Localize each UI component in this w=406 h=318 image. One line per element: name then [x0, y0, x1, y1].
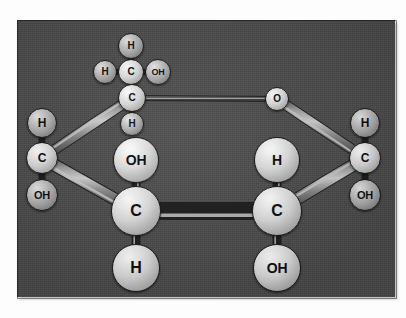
atom-label: O: [273, 94, 280, 104]
atom-c3[interactable]: C: [111, 186, 161, 236]
atom-c5[interactable]: C: [118, 84, 146, 112]
atom-label: H: [129, 119, 136, 129]
atom-c2h[interactable]: H: [254, 137, 300, 183]
atom-c4h[interactable]: H: [27, 108, 57, 138]
atom-label: H: [272, 153, 282, 167]
atom-c1oh[interactable]: OH: [349, 179, 381, 211]
atom-label: C: [271, 203, 282, 219]
atom-c1h[interactable]: H: [350, 108, 380, 138]
atom-c4[interactable]: C: [26, 142, 58, 174]
render-panel: HHCOHCHOHCOHHCOHOHCHHCOH: [17, 20, 395, 297]
atom-c1[interactable]: C: [349, 142, 381, 174]
atom-c3h[interactable]: H: [112, 244, 160, 292]
bond-layer: [17, 20, 395, 297]
atom-c6oh[interactable]: OH: [145, 59, 171, 85]
atom-label: C: [361, 152, 369, 164]
atom-label: H: [128, 41, 135, 51]
atom-label: C: [38, 152, 46, 164]
atom-c5h[interactable]: H: [120, 112, 144, 136]
atom-c2oh[interactable]: OH: [253, 244, 301, 292]
bond: [132, 98, 277, 99]
atom-c2[interactable]: C: [252, 186, 302, 236]
atom-label: H: [361, 117, 369, 129]
atom-label: H: [38, 117, 46, 129]
atom-c6c[interactable]: C: [118, 59, 144, 85]
atom-label: C: [128, 67, 135, 77]
atom-label: OH: [357, 190, 373, 201]
atom-label: OH: [126, 153, 146, 167]
atom-label: C: [129, 93, 136, 103]
atom-c3oh[interactable]: OH: [113, 137, 159, 183]
molecular-figure: HHCOHCHOHCOHHCOHOHCHHCOH: [0, 0, 406, 318]
atom-label: OH: [152, 68, 165, 77]
atom-label: H: [102, 67, 109, 77]
atom-c4oh[interactable]: OH: [26, 179, 58, 211]
atom-c6h_l[interactable]: H: [93, 60, 117, 84]
atom-label: C: [130, 203, 141, 219]
atom-o5[interactable]: O: [265, 87, 289, 111]
atom-label: OH: [34, 190, 50, 201]
atom-label: OH: [267, 261, 287, 275]
atom-c6[interactable]: H: [118, 33, 144, 59]
molecule-scene: HHCOHCHOHCOHHCOHOHCHHCOH: [17, 20, 395, 297]
atom-label: H: [130, 260, 141, 276]
